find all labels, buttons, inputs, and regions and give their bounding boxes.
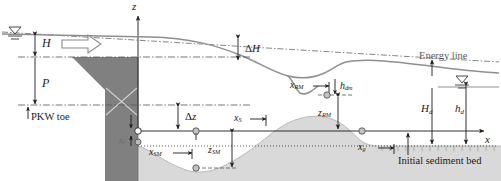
figure-canvas: z x H P PKW toe ΔH Δz z0 xS xSM zSM xRM … (0, 0, 501, 181)
ridge-end-marker (359, 128, 365, 134)
origin-marker (135, 128, 142, 135)
Hd-subscript: d (429, 108, 432, 115)
h-d-label: hd (455, 102, 464, 115)
xg-subscript: g (362, 145, 365, 152)
initial-sediment-bed-label: Initial sediment bed (398, 155, 481, 166)
hd-subscript: d (461, 108, 464, 115)
x-g-label: xg (358, 141, 366, 152)
energy-line-label: Energy line (419, 50, 468, 61)
delta-z-var: z (192, 110, 196, 122)
pkw-structure (72, 57, 138, 181)
x-rm-label: xRM (290, 79, 303, 90)
xRM-subscript: RM (294, 83, 303, 90)
scour-min-marker (193, 165, 199, 171)
z-sm-label: zSM (208, 144, 220, 155)
pkw-toe-label: PKW toe (31, 111, 70, 122)
head-H-label: H (42, 36, 51, 51)
x-sm-label: xSM (149, 146, 162, 157)
hdm-subscript: dm (345, 84, 353, 91)
weir-height-P-label: P (42, 76, 49, 91)
zRM-subscript: RM (322, 111, 331, 118)
h-dm-label: hdm (340, 80, 353, 91)
xS-subscript: S (238, 116, 241, 123)
Hd-var: H (421, 102, 429, 114)
zSM-subscript: SM (212, 148, 220, 155)
z0-marker (135, 139, 141, 145)
delta-z-label: Δz (185, 110, 196, 122)
z-rm-label: zRM (318, 107, 331, 118)
ridge-max-marker (324, 92, 330, 98)
z0-label: z0 (119, 136, 125, 145)
H-d-label: Hd (421, 102, 432, 115)
x-s-label: xS (234, 112, 242, 123)
x-axis-label: x (485, 133, 490, 145)
scour-start-marker (193, 128, 199, 134)
z-axis-label: z (132, 0, 136, 12)
upstream-free-surface-symbol (8, 27, 22, 39)
xSM-subscript: SM (153, 150, 161, 157)
downstream-free-surface-symbol (455, 76, 469, 88)
z0-subscript: 0 (122, 140, 124, 145)
delta-H-label: ΔH (245, 42, 260, 54)
delta-H-var: H (252, 42, 260, 54)
schematic-svg (0, 0, 501, 181)
sediment-bed-group (138, 116, 501, 181)
